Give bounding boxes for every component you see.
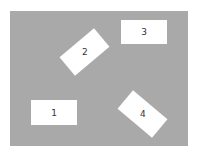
- box-4-label: 4: [140, 109, 146, 119]
- box-1[interactable]: 1: [31, 100, 77, 125]
- gray-canvas: 1 2 3 4: [10, 11, 188, 146]
- box-1-label: 1: [51, 108, 57, 118]
- box-3-label: 3: [141, 27, 147, 37]
- box-3[interactable]: 3: [121, 20, 167, 44]
- box-4[interactable]: 4: [118, 90, 168, 137]
- box-2[interactable]: 2: [60, 28, 110, 75]
- box-2-label: 2: [82, 47, 88, 57]
